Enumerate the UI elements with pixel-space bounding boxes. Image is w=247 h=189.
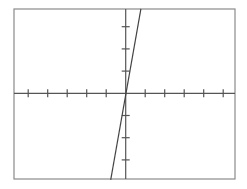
function-plot	[0, 0, 247, 189]
axes	[14, 9, 235, 179]
